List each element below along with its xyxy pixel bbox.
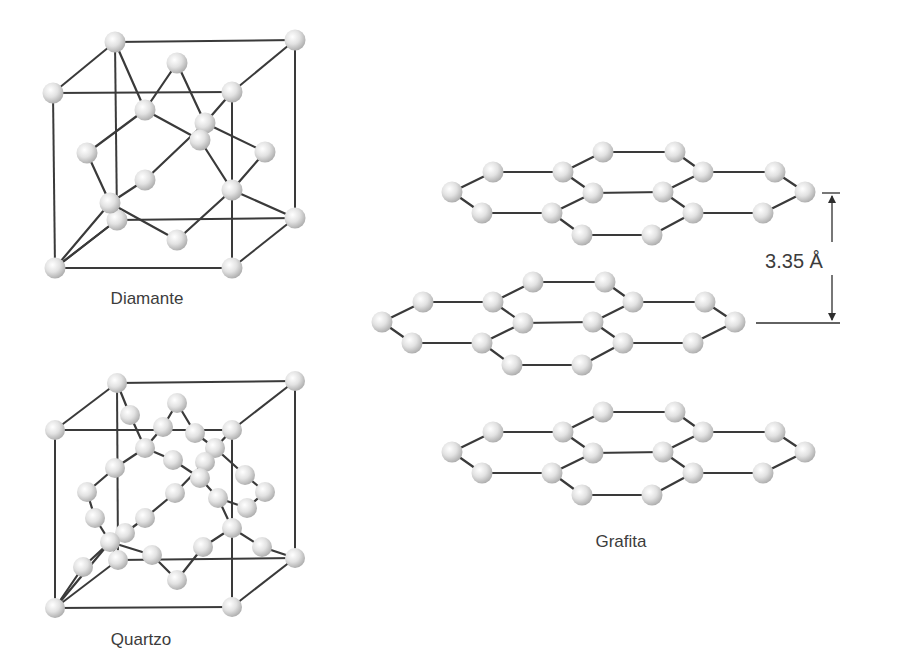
quartz-atom [135, 438, 155, 458]
quartz-label: Quartzo [111, 630, 171, 649]
graphite-atom [472, 203, 493, 224]
diamond-atom [255, 142, 276, 163]
graphite-atom [553, 162, 574, 183]
diamond-bond [115, 42, 145, 110]
diamond-cell-edge [53, 42, 115, 93]
arrow-down-icon [828, 313, 836, 321]
graphite-atoms [372, 142, 816, 506]
quartz-atom [107, 373, 127, 393]
quartz-atom [255, 482, 275, 502]
diamond-atom [45, 258, 66, 279]
diamond-cell-edge [53, 93, 55, 268]
graphite-bond [593, 192, 663, 193]
graphite-atom [665, 402, 686, 423]
graphite-atom [595, 272, 616, 293]
quartz-atom [45, 420, 65, 440]
graphite-atom [642, 485, 663, 506]
graphite-atom [553, 422, 574, 443]
arrow-up-icon [828, 195, 836, 203]
quartz-atom [185, 423, 205, 443]
diamond-atom [43, 83, 64, 104]
diamond-bond [55, 220, 117, 268]
diamond-atom [135, 100, 156, 121]
quartz-atom [285, 548, 305, 568]
quartz-atom [237, 498, 257, 518]
quartz-atom [105, 458, 125, 478]
quartz-cell-edge [55, 383, 117, 430]
graphite-atom [683, 463, 704, 484]
diamond-atom [222, 82, 243, 103]
graphite-bond [593, 452, 663, 453]
graphite-atom [372, 312, 393, 333]
diamond-cell-edge [232, 218, 295, 268]
quartz-atom [167, 570, 187, 590]
graphite-atom [642, 225, 663, 246]
graphite-atom [725, 312, 746, 333]
diamond-cell-edge [117, 218, 295, 220]
graphite-atom [572, 225, 593, 246]
diamond-cell-edge [53, 92, 232, 93]
quartz-atom [120, 405, 140, 425]
crystal-structures-figure: 3.35 Å Diamante Quartzo Grafita [0, 0, 901, 671]
quartz-atom [222, 420, 242, 440]
graphite-atom [693, 162, 714, 183]
diamond-bond [177, 190, 232, 240]
graphite-atom [523, 272, 544, 293]
diamond-atom [285, 30, 306, 51]
diamond-label: Diamante [111, 289, 184, 308]
quartz-atom [142, 545, 162, 565]
graphite-atom [765, 162, 786, 183]
diamond-atom [135, 170, 156, 191]
quartz-structure [45, 371, 305, 618]
graphite-atom [593, 402, 614, 423]
graphite-atom [653, 442, 674, 463]
graphite-atom [683, 203, 704, 224]
quartz-atom [77, 482, 97, 502]
quartz-atom [235, 465, 255, 485]
graphite-atom [442, 442, 463, 463]
graphite-atom [693, 422, 714, 443]
quartz-atom [222, 597, 242, 617]
graphite-atom [413, 292, 434, 313]
quartz-cell-edge [117, 381, 295, 383]
graphite-atom [483, 292, 504, 313]
graphite-atom [695, 292, 716, 313]
graphite-atom [795, 182, 816, 203]
graphite-atom [542, 203, 563, 224]
quartz-atom [193, 537, 213, 557]
diamond-atom [167, 53, 188, 74]
diamond-cell-edge [115, 40, 295, 42]
quartz-atom [45, 598, 65, 618]
quartz-cell-edge [232, 558, 295, 607]
diamond-atom [222, 180, 243, 201]
layer-spacing-label: 3.35 Å [765, 250, 823, 272]
quartz-atom [208, 488, 228, 508]
quartz-atom [85, 508, 105, 528]
quartz-atom [222, 518, 242, 538]
graphite-atom [442, 182, 463, 203]
graphite-atom [623, 292, 644, 313]
diamond-atom [285, 208, 306, 229]
graphite-atom [795, 442, 816, 463]
quartz-atom [100, 532, 120, 552]
quartz-cell-edge [55, 607, 232, 608]
graphite-atom [583, 312, 604, 333]
graphite-atom [765, 422, 786, 443]
graphite-atom [583, 183, 604, 204]
quartz-atom [190, 468, 210, 488]
graphite-atom [402, 333, 423, 354]
graphite-atom [472, 333, 493, 354]
graphite-structure [372, 142, 816, 506]
diamond-atom [105, 32, 126, 53]
quartz-atom [167, 393, 187, 413]
graphite-atom [502, 355, 523, 376]
graphite-atom [683, 333, 704, 354]
graphite-atom [472, 463, 493, 484]
graphite-atom [593, 142, 614, 163]
quartz-atom [73, 557, 93, 577]
graphite-atom [513, 313, 534, 334]
graphite-atom [542, 463, 563, 484]
diamond-atom [167, 230, 188, 251]
quartz-atom [135, 508, 155, 528]
quartz-atom [163, 450, 183, 470]
